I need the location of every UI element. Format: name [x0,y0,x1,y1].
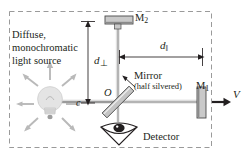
origin-label: O [104,87,112,99]
dpar-arrowhead-right [198,54,205,60]
mirror-m1-label: M1 [196,80,209,93]
mirror-m2-stem [115,24,121,29]
michelson-interferometer-figure: Diffuse, monochromatic light source M2 M… [0,0,248,161]
speed-of-light-label: c [76,97,80,109]
light-source-label-line1: Diffuse, [12,29,46,40]
d-perpendicular-label: d⊥ [94,54,108,68]
d-parallel-subscript: ‖ [166,43,168,53]
mirror-m1-label-text: M [196,80,205,91]
mirror-m2-label: M2 [135,12,148,25]
light-source-label: Diffuse, monochromatic light source [12,29,84,67]
detector-label: Detector [143,131,179,143]
d-parallel-label: d‖ [160,39,168,53]
mirror-m1-label-subscript: 1 [205,84,209,93]
beam-splitter-note-label: (half silvered) [134,81,182,91]
d-perpendicular-subscript: ⊥ [100,58,108,68]
mirror-callout-arrowhead [122,75,127,81]
light-source-label-line2: monochromatic [12,42,78,53]
light-bulb-icon [16,61,80,132]
velocity-label: V [233,88,240,101]
diagram-canvas [0,0,248,161]
velocity-arrow-head [224,98,232,106]
mirror-m2-label-text: M [135,12,144,23]
eye-icon [101,123,137,145]
light-source-label-line3: light source [12,55,61,66]
mirror-m2-label-subscript: 2 [144,16,148,25]
